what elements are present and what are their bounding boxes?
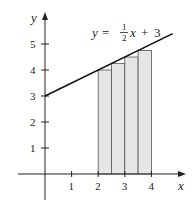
x-tick-label: 3 xyxy=(122,180,128,192)
x-tick-label: 1 xyxy=(69,180,75,192)
x-axis-label: x xyxy=(177,178,184,193)
svg-text:y: y xyxy=(90,25,98,40)
equation-annotation: y = 1 2 x + 3 xyxy=(90,22,161,43)
riemann-rectangle xyxy=(138,51,151,175)
y-tick-label: 2 xyxy=(30,116,36,128)
svg-text:x: x xyxy=(129,25,136,40)
x-axis-arrow-icon xyxy=(178,171,186,177)
riemann-sum-chart: 123412345 x y y = 1 2 x + 3 xyxy=(0,0,194,214)
y-axis-arrow-icon xyxy=(42,12,48,20)
svg-text:2: 2 xyxy=(122,33,127,43)
x-tick-label: 2 xyxy=(95,180,101,192)
y-tick-label: 4 xyxy=(30,64,36,76)
y-tick-label: 3 xyxy=(30,90,36,102)
y-tick-label: 5 xyxy=(30,38,36,50)
riemann-rectangle xyxy=(125,57,138,174)
riemann-rectangles xyxy=(98,51,151,175)
y-axis-label: y xyxy=(29,10,37,25)
svg-text:3: 3 xyxy=(154,25,161,40)
y-tick-label: 1 xyxy=(30,142,36,154)
svg-text:+: + xyxy=(141,25,148,40)
riemann-rectangle xyxy=(112,64,125,175)
x-tick-label: 4 xyxy=(148,180,154,192)
svg-text:1: 1 xyxy=(122,22,127,32)
svg-text:=: = xyxy=(102,25,109,40)
riemann-rectangle xyxy=(98,70,111,174)
